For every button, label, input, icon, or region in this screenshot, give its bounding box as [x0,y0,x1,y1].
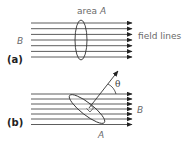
area-label: area A [77,6,106,16]
panel-a-tag: (a) [7,54,23,65]
theta-label: θ [115,79,120,89]
panel-b-tag: (b) [7,117,23,128]
field-symbol-a: B [17,36,23,46]
area-symbol-b: A [97,130,104,140]
flux-diagram: area A B field lines (a) θ B A (b) [0,0,187,146]
field-lines-label: field lines [138,31,182,41]
panel-a: area A B field lines (a) [7,6,182,65]
panel-b: θ B A (b) [7,71,143,140]
field-symbol-b: B [137,105,143,115]
field-lines-a [31,23,132,57]
